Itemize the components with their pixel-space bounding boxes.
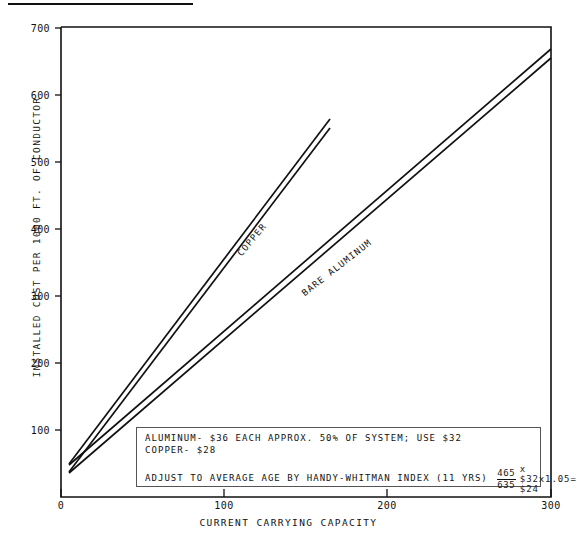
x-tick-label-300: 300 [541, 500, 560, 511]
y-tick-label-100: 100 [20, 425, 50, 436]
note-line-copper: COPPER- $28 [145, 445, 532, 457]
bare-aluminum-upper-line [69, 49, 551, 465]
y-axis-label: INSTALLED COST PER 1000 FT. OF CONDUCTOR [31, 158, 42, 378]
note-spacer [145, 456, 532, 463]
y-axis-ticks [55, 28, 61, 430]
x-tick-label-0: 0 [58, 500, 64, 511]
handy-whitman-fraction: 465 635 [497, 469, 516, 490]
note-line-adjust-row: ADJUST TO AVERAGE AGE BY HANDY-WHITMAN I… [145, 464, 532, 494]
x-axis-label: CURRENT CARRYING CAPACITY [0, 517, 577, 528]
series-bare-aluminum [69, 49, 551, 473]
copper-upper-line [69, 119, 330, 464]
chart-figure: 700 600 500 400 300 200 100 0 100 200 30… [0, 0, 577, 546]
note-line-aluminum: ALUMINUM- $36 EACH APPROX. 50% OF SYSTEM… [145, 433, 532, 445]
fraction-numerator: 465 [497, 469, 515, 478]
y-tick-label-700: 700 [20, 23, 50, 34]
x-tick-label-200: 200 [377, 500, 396, 511]
copper-lower-line [69, 128, 330, 472]
bare-aluminum-lower-line [69, 58, 551, 473]
note-adjust-prefix: ADJUST TO AVERAGE AGE BY HANDY-WHITMAN I… [145, 473, 488, 485]
series-copper [69, 119, 330, 472]
x-tick-label-100: 100 [214, 500, 233, 511]
annotation-note-box: ALUMINUM- $36 EACH APPROX. 50% OF SYSTEM… [136, 427, 541, 487]
fraction-denominator: 635 [497, 481, 515, 490]
note-adjust-suffix: x $32x1.05= $24 [520, 464, 577, 494]
